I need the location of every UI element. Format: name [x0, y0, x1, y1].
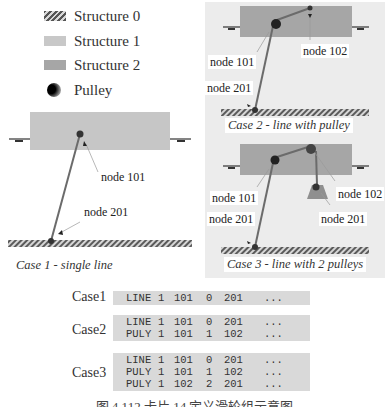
code-row: PULY 1 101 1 102 ...	[113, 328, 310, 340]
case2-node-201-label: node 201	[205, 81, 253, 95]
case1-node-101-label: node 101	[99, 170, 147, 184]
case2-node-101-label: node 101	[208, 55, 256, 69]
code-block-case3: LINE 1 101 0 201 ... PULY 1 101 1 102 ..…	[113, 353, 310, 391]
code-row: LINE 1 101 0 201 ...	[113, 354, 310, 366]
code-row: LINE 1 101 0 201 ...	[113, 292, 310, 304]
case3-node-201-weight-label: node 201	[319, 212, 367, 226]
case2-node-102-label: node 102	[301, 44, 349, 58]
case1-title: Case 1 - single line	[16, 258, 113, 273]
case3-node-102-label: node 102	[336, 187, 384, 201]
code-case-label: Case2	[72, 322, 106, 338]
case2-title: Case 2 - line with pulley	[225, 118, 353, 133]
structure-1-block	[30, 112, 170, 150]
ground-structure-0	[8, 240, 192, 247]
case1-node-201-label: node 201	[82, 205, 130, 219]
code-block-case1: LINE 1 101 0 201 ...	[113, 291, 310, 305]
code-row: LINE 1 101 0 201 ...	[113, 316, 310, 328]
case3-node-201-label: node 201	[207, 212, 255, 226]
figure-caption: 图 4.112 卡片 14 定义滑轮组示意图	[0, 397, 389, 407]
code-row: PULY 1 102 2 201 ...	[113, 378, 310, 390]
case3-title: Case 3 - line with 2 pulleys	[224, 257, 366, 272]
code-row: PULY 1 101 1 102 ...	[113, 366, 310, 378]
code-case-label: Case3	[72, 365, 106, 381]
case3-node-101-label: node 101	[210, 191, 258, 205]
case1-drawing	[0, 0, 200, 280]
code-block-case2: LINE 1 101 0 201 ... PULY 1 101 1 102 ..…	[113, 315, 310, 341]
code-case-label: Case1	[72, 289, 106, 305]
